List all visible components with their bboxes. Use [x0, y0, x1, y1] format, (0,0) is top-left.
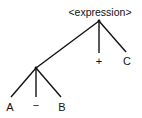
edge-subtree-to-b [36, 68, 61, 97]
edge-root-to-c [99, 21, 126, 52]
root-label: <expression> [68, 6, 131, 18]
plus-label: + [96, 55, 102, 67]
c-label: C [123, 55, 131, 67]
parse-tree-diagram: <expression> + C A − B [0, 0, 142, 118]
minus-label: − [33, 99, 39, 111]
b-label: B [58, 101, 65, 113]
edge-subtree-to-a [11, 68, 36, 97]
edge-root-to-subtree [36, 21, 99, 68]
a-label: A [6, 101, 14, 113]
